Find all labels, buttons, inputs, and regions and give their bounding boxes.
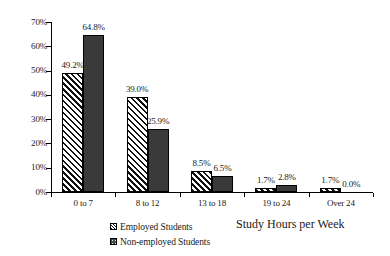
bar-value-label: 6.5% xyxy=(203,164,243,173)
bar-value-label: 49.2% xyxy=(53,61,93,70)
x-axis-tick xyxy=(244,193,245,197)
x-axis-title: Study Hours per Week xyxy=(236,218,344,231)
y-axis-tick-label: 40% xyxy=(7,90,47,99)
x-axis-line xyxy=(51,192,373,193)
bar-non-employed xyxy=(276,185,297,192)
bar-employed xyxy=(255,188,276,192)
bar-employed xyxy=(62,73,83,192)
legend-item-employed: Employed Students xyxy=(110,219,210,234)
bar-value-label: 64.8% xyxy=(74,23,114,32)
y-axis-tick-label: 60% xyxy=(7,42,47,51)
x-axis-tick xyxy=(180,193,181,197)
legend-label-employed: Employed Students xyxy=(120,222,192,232)
x-axis-tick xyxy=(51,193,52,197)
x-axis-tick xyxy=(309,193,310,197)
bar-employed xyxy=(191,171,212,192)
bar-value-label: 0.0% xyxy=(331,180,371,189)
chart-legend: Employed Students Non-employed Students xyxy=(110,219,210,249)
bar-non-employed xyxy=(83,35,104,192)
bar-value-label: 25.9% xyxy=(138,117,178,126)
y-axis-tick-label: 0% xyxy=(7,188,47,197)
x-axis-category-label: Over 24 xyxy=(301,198,381,208)
bar-non-employed xyxy=(148,129,169,192)
bar-value-label: 39.0% xyxy=(117,85,157,94)
x-axis-tick xyxy=(373,193,374,197)
dotted-square-swatch-icon xyxy=(110,238,117,245)
legend-item-non-employed: Non-employed Students xyxy=(110,234,210,249)
x-axis-tick xyxy=(115,193,116,197)
bar-value-label: 2.8% xyxy=(267,173,307,182)
legend-label-non-employed: Non-employed Students xyxy=(120,237,210,247)
y-axis-tick-label: 10% xyxy=(7,163,47,172)
y-axis-tick-label: 30% xyxy=(7,115,47,124)
hatched-square-swatch-icon xyxy=(110,223,117,230)
y-axis-tick-label: 20% xyxy=(7,139,47,148)
y-axis-tick-label: 70% xyxy=(7,18,47,27)
bar-non-employed xyxy=(212,176,233,192)
bar-employed xyxy=(127,97,148,192)
study-hours-bar-chart: 0%10%20%30%40%50%60%70% 49.2%64.8%39.0%2… xyxy=(0,0,390,256)
y-axis-tick-label: 50% xyxy=(7,66,47,75)
